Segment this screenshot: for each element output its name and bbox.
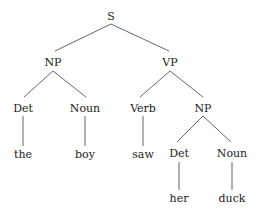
node-np-object: NP	[194, 102, 212, 115]
edge-s-np	[55, 24, 111, 51]
leaf-saw: saw	[132, 148, 154, 161]
edge-np-noun	[53, 71, 86, 97]
tree-nodes: S NP VP Det Noun Verb NP the boy saw Det…	[13, 10, 247, 205]
leaf-boy: boy	[75, 148, 96, 161]
node-noun: Noun	[70, 102, 100, 115]
node-det-object: Det	[169, 147, 189, 160]
edge-vp-verb	[140, 71, 170, 97]
edge-np-det	[24, 71, 53, 97]
edge-vp-np	[170, 71, 203, 97]
node-verb: Verb	[129, 102, 156, 115]
node-vp: VP	[161, 56, 178, 69]
node-np: NP	[44, 56, 62, 69]
node-s: S	[107, 10, 115, 23]
node-noun-object: Noun	[217, 147, 247, 160]
edge-np-noun2	[203, 116, 231, 142]
node-det: Det	[13, 102, 33, 115]
leaf-the: the	[14, 148, 32, 161]
edge-s-vp	[111, 24, 169, 51]
leaf-her: her	[170, 192, 190, 205]
edge-np-det2	[177, 116, 203, 142]
parse-tree-diagram: S NP VP Det Noun Verb NP the boy saw Det…	[0, 0, 258, 213]
leaf-duck: duck	[219, 192, 246, 205]
